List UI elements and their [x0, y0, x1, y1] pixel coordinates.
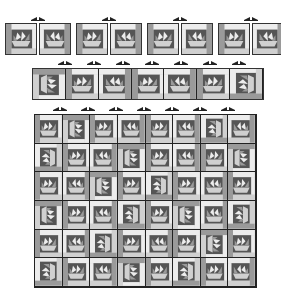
join-arrow-icon — [232, 61, 246, 65]
row-strip — [32, 68, 264, 100]
quilt-block — [146, 172, 174, 201]
quilt-block — [63, 172, 91, 201]
quilt-block — [132, 69, 165, 99]
quilt-block — [35, 230, 63, 259]
join-arrow-icon — [102, 17, 116, 21]
quilt-block — [5, 23, 37, 55]
quilt-top — [34, 114, 257, 288]
join-arrow-icon — [53, 107, 67, 111]
quilt-block — [90, 258, 118, 287]
quilt-block — [181, 23, 213, 55]
quilt-block — [173, 258, 201, 287]
quilt-block — [99, 69, 132, 99]
join-arrow-icon — [173, 17, 187, 21]
join-arrow-icon — [174, 61, 188, 65]
join-arrow-icon — [203, 61, 217, 65]
quilt-block — [228, 172, 256, 201]
join-arrow-icon — [87, 61, 101, 65]
quilt-block — [228, 258, 256, 287]
join-arrow-icon — [109, 107, 123, 111]
join-arrow-icon — [244, 17, 258, 21]
quilt-block — [201, 115, 229, 144]
quilt-block — [35, 115, 63, 144]
quilt-block — [66, 69, 99, 99]
quilt-block — [173, 144, 201, 173]
quilt-block — [110, 23, 142, 55]
quilt-block — [201, 144, 229, 173]
quilt-block — [35, 172, 63, 201]
quilt-block — [63, 201, 91, 230]
quilt-block — [90, 201, 118, 230]
quilt-block — [228, 144, 256, 173]
quilt-block — [63, 115, 91, 144]
quilt-block — [146, 144, 174, 173]
quilt-block — [147, 23, 179, 55]
join-arrow-icon — [116, 61, 130, 65]
quilt-block — [164, 69, 197, 99]
quilt-block — [201, 201, 229, 230]
join-arrow-icon — [165, 107, 179, 111]
quilt-block — [146, 201, 174, 230]
quilt-block — [218, 23, 250, 55]
join-arrow-icon — [145, 61, 159, 65]
join-arrow-icon — [31, 17, 45, 21]
quilt-block — [146, 258, 174, 287]
quilt-block — [173, 201, 201, 230]
quilt-block — [63, 144, 91, 173]
quilt-block — [118, 115, 146, 144]
quilt-block — [118, 172, 146, 201]
quilt-block — [118, 258, 146, 287]
quilt-block — [33, 69, 66, 99]
quilt-block — [90, 172, 118, 201]
quilt-block — [63, 258, 91, 287]
join-arrow-icon — [193, 107, 207, 111]
quilt-block — [201, 258, 229, 287]
quilt-block — [35, 201, 63, 230]
quilt-block — [76, 23, 108, 55]
quilt-block — [146, 230, 174, 259]
quilt-block — [173, 230, 201, 259]
quilt-block — [228, 230, 256, 259]
quilt-block — [201, 172, 229, 201]
quilt-block — [90, 115, 118, 144]
quilt-block — [35, 144, 63, 173]
join-arrow-icon — [81, 107, 95, 111]
quilt-block — [118, 230, 146, 259]
join-arrow-icon — [137, 107, 151, 111]
quilt-block — [173, 115, 201, 144]
quilt-block — [197, 69, 230, 99]
join-arrow-icon — [58, 61, 72, 65]
join-arrow-icon — [221, 107, 235, 111]
quilt-block — [118, 201, 146, 230]
quilt-block — [35, 258, 63, 287]
quilt-block — [146, 115, 174, 144]
quilt-block — [118, 144, 146, 173]
quilt-block — [90, 230, 118, 259]
quilt-block — [201, 230, 229, 259]
quilt-block — [63, 230, 91, 259]
quilt-block — [228, 115, 256, 144]
quilt-block — [90, 144, 118, 173]
quilt-block — [228, 201, 256, 230]
quilt-block — [39, 23, 71, 55]
quilt-block — [252, 23, 281, 55]
quilt-block — [173, 172, 201, 201]
quilt-block — [230, 69, 263, 99]
